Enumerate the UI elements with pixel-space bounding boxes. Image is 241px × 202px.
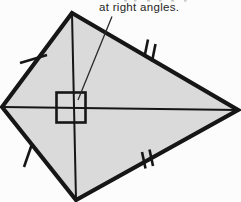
tick-upper-right-1-icon [145, 40, 149, 57]
annotation-label: at right angles. [99, 1, 179, 13]
kite-diagram: at right angles. [0, 0, 241, 202]
kite-diagram-canvas: at right angles. [0, 0, 241, 202]
tick-lower-left-icon [24, 144, 32, 167]
tick-upper-right-2-icon [152, 44, 156, 62]
